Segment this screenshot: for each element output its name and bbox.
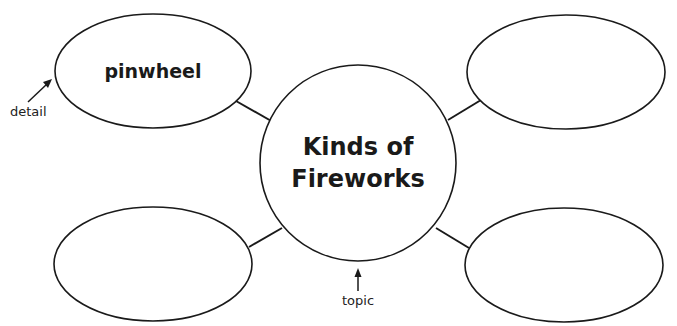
topic-title-line2: Fireworks	[262, 163, 454, 195]
detail-text-top-left: pinwheel	[55, 60, 251, 82]
topic-annotation: topic	[338, 293, 378, 308]
connector-top-right	[448, 100, 481, 120]
detail-ellipse-bottom-right	[465, 208, 663, 322]
topic-title-line1: Kinds of	[262, 131, 454, 163]
connector-bottom-left	[249, 228, 282, 247]
detail-arrow-icon	[28, 79, 52, 102]
detail-ellipse-top-right	[467, 15, 665, 129]
topic-arrow-icon	[355, 268, 362, 291]
connector-top-left	[236, 101, 273, 122]
detail-ellipse-bottom-left	[54, 207, 252, 321]
topic-title: Kinds of Fireworks	[262, 131, 454, 195]
connector-bottom-right	[436, 228, 469, 248]
detail-annotation: detail	[10, 104, 47, 119]
